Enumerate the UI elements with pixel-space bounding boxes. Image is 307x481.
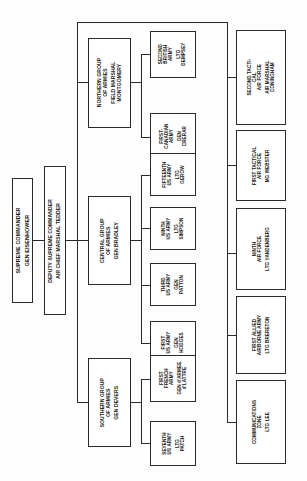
connector-central-bus (141, 175, 142, 343)
node-person-line1: AIR MARSHAL (265, 59, 270, 96)
node-northern-group-of-armies[interactable]: NORTHERN GROUP OF ARMIES FIELD MARSHAL M… (88, 38, 131, 128)
node-ninth-us-army[interactable]: NINTH US ARMY LTG SIMPSON (150, 207, 196, 250)
node-title-line2: AIR FORCE (257, 146, 262, 185)
node-title-line3: ARMY (169, 43, 174, 66)
connector-central-to-first-us (141, 343, 150, 344)
node-title-line1: FIRST ALLIED (252, 315, 257, 355)
node-person: LTG LEE (265, 400, 270, 444)
node-person-line2: PATCH (179, 432, 184, 454)
node-person-line2: GEROW (179, 161, 184, 187)
connector-air-to-commz (227, 422, 236, 423)
node-person: LTG VANDENBERG (265, 227, 270, 271)
node-person-line2: HODGES (179, 332, 184, 354)
connector-southern-bus (141, 379, 142, 444)
connector-supreme-to-deputy (33, 240, 44, 241)
node-title-line2: CAL (252, 59, 257, 96)
node-title-line2: US ARMY (167, 218, 172, 240)
node-person-line2: CRERAR (182, 124, 187, 149)
node-title-line2: US ARMY (167, 161, 172, 187)
node-deputy-supreme-commander[interactable]: DEPUTY SUPREME COMMANDER AIR CHIEF MARSH… (44, 166, 66, 315)
node-title-line2: AIR FORCE (257, 227, 262, 271)
node-title-line1: SECOND TACTI- (247, 59, 252, 96)
node-title-line3: ARMY (169, 124, 174, 149)
node-title-line2: US ARMY (167, 432, 172, 454)
node-person-line2: DEMPSEY (182, 43, 187, 66)
connector-air-to-ninth-af (227, 253, 236, 254)
node-ninth-air-force[interactable]: NINTH AIR FORCE LTG VANDENBERG (236, 208, 286, 290)
node-title-line2: US ARMY (167, 332, 172, 354)
node-person-line1: GEN d'ARMEE (177, 362, 182, 395)
node-third-us-army[interactable]: THIRD US ARMY GEN PATTON (150, 263, 196, 306)
connector-southern-to-french (141, 379, 150, 380)
node-title-line1: FIRST (159, 362, 164, 395)
connector-air-branch-riser (77, 22, 78, 83)
connector-central-to-third (141, 285, 150, 286)
node-person-line2: d'LATTRE (182, 362, 187, 395)
connector-trunk-to-southern (77, 402, 88, 403)
node-title-line2: OF ARMIES (105, 218, 111, 263)
connector-southern-to-seventh (141, 443, 150, 444)
connector-main-trunk (77, 82, 78, 402)
node-title-line2: AIRBORNE ARMY (257, 315, 262, 355)
node-person-line2: CONINGHAM (270, 59, 275, 96)
node-central-group-of-armies[interactable]: CENTRAL GROUP OF ARMIES GEN BRADLEY (88, 196, 131, 285)
node-seventh-us-army[interactable]: SEVENTH US ARMY LTG PATCH (150, 421, 196, 466)
node-title: DEPUTY SUPREME COMMANDER (48, 199, 54, 283)
node-title-line1: FIRST TACTICAL (252, 146, 257, 185)
node-person: GEN DEVERS (114, 378, 120, 427)
node-supreme-commander[interactable]: SUPREME COMMANDER GEN EISENHOWER (12, 178, 33, 303)
node-person-line2: MONTGOMERY (116, 58, 122, 107)
node-title-line2: US ARMY (167, 274, 172, 296)
node-person: AIR CHIEF MARSHAL TEDDER (56, 199, 62, 283)
node-person: LTG BRERETON (265, 315, 270, 355)
connector-air-to-second-tactical (227, 77, 236, 78)
connector-air-trunk (227, 22, 228, 423)
node-title-line3: ARMY (169, 362, 174, 395)
connector-central-to-fifteenth (141, 175, 150, 176)
node-person: MG WEBSTER (265, 146, 270, 185)
connector-northern-to-second-british (141, 54, 150, 55)
connector-northern-bus (141, 54, 142, 138)
connector-air-branch-top (77, 22, 228, 23)
node-title-line3: AIR FORCE (257, 59, 262, 96)
node-first-allied-airborne-army[interactable]: FIRST ALLIED AIRBORNE ARMY LTG BRERETON (236, 296, 286, 374)
connector-air-to-airborne (227, 335, 236, 336)
node-southern-group-of-armies[interactable]: SOUTHERN GROUP OF ARMIES GEN DEVERS (88, 358, 131, 447)
connector-air-to-first-tactical (227, 165, 236, 166)
node-title-line2: FRENCH (164, 362, 169, 395)
org-chart: SUPREME COMMANDER GEN EISENHOWER DEPUTY … (0, 0, 307, 481)
node-second-tactical-air-force[interactable]: SECOND TACTI- CAL AIR FORCE AIR MARSHAL … (236, 30, 286, 125)
node-first-tactical-air-force[interactable]: FIRST TACTICAL AIR FORCE MG WEBSTER (236, 130, 286, 201)
node-title-line2: OF ARMIES (103, 58, 109, 107)
node-first-french-army[interactable]: FIRST FRENCH ARMY GEN d'ARMEE d'LATTRE (150, 355, 196, 402)
node-second-british-army[interactable]: SECOND BRITISH ARMY LTG DEMPSEY (150, 31, 196, 78)
connector-trunk-to-central (77, 240, 88, 241)
node-person: GEN BRADLEY (114, 218, 120, 263)
node-title: SUPREME COMMANDER (15, 207, 21, 273)
node-person: GEN EISENHOWER (24, 207, 30, 273)
connector-northern-to-first-canadian (141, 137, 150, 138)
node-fifteenth-us-army[interactable]: FIFTEENTH US ARMY LTG GEROW (150, 153, 196, 196)
node-person-line2: PATTON (179, 274, 184, 296)
node-person-line2: SIMPSON (179, 218, 184, 240)
connector-central-to-ninth (141, 228, 150, 229)
node-communications-zone[interactable]: COMMUNICATIONS ZONE LTG LEE (236, 380, 286, 464)
node-title-line2: OF ARMIES (105, 378, 111, 427)
connector-trunk-to-northern (77, 82, 88, 83)
node-title-line2: ZONE (257, 400, 262, 444)
